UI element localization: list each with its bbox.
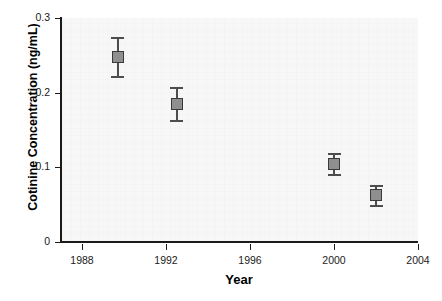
y-axis-title: Cotinine Concentration (ng/mL) [26,2,40,232]
error-bar-cap-upper [111,37,124,39]
error-bar-cap-upper [170,87,183,89]
error-bar-cap-upper [328,153,341,155]
error-bar-cap-lower [170,120,183,122]
x-tick-mark [334,244,335,250]
error-bar-cap-lower [370,205,383,207]
data-marker [171,98,183,110]
data-marker [328,158,340,170]
x-tick-mark [82,244,83,250]
data-marker [370,189,382,201]
x-tick-mark [250,244,251,250]
x-tick-label: 1996 [220,254,280,266]
x-tick-mark [166,244,167,250]
x-axis-title: Year [60,272,418,287]
y-tick-mark [55,18,60,19]
x-axis-spine [60,241,418,243]
y-axis-spine [60,17,62,243]
x-tick-label: 1988 [52,254,112,266]
y-tick-mark [55,93,60,94]
chart-figure: 00.10.20.3 19881992199620002004 Cotinine… [0,0,442,301]
y-tick-mark [55,242,60,243]
error-bar-cap-lower [328,174,341,176]
data-marker [112,51,124,63]
y-tick-label: 0 [16,235,50,247]
x-tick-mark [418,244,419,250]
y-tick-mark [55,167,60,168]
error-bar-cap-upper [370,185,383,187]
error-bar-cap-lower [111,76,124,78]
x-tick-label: 1992 [136,254,196,266]
x-tick-label: 2004 [388,254,442,266]
x-tick-label: 2000 [304,254,364,266]
